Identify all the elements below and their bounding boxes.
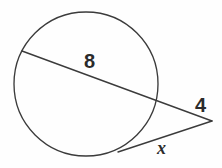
chord-length-label: 8 bbox=[84, 51, 95, 71]
circle-shape bbox=[14, 12, 158, 156]
external-secant-length-label: 4 bbox=[195, 95, 206, 115]
geometry-canvas bbox=[0, 0, 222, 168]
geometry-figure: 8 4 x bbox=[0, 0, 222, 168]
tangent-length-label: x bbox=[157, 139, 166, 157]
secant-line bbox=[22, 51, 212, 121]
